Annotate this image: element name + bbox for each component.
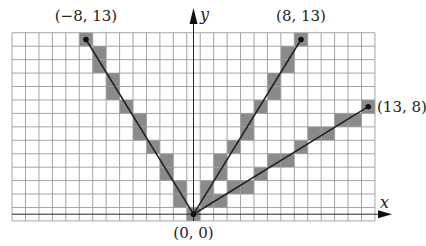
label-neg8-13: (−8, 13) — [55, 7, 117, 25]
endpoint-dot — [365, 104, 371, 110]
shaded-cell — [214, 154, 227, 167]
shaded-cell — [308, 127, 321, 140]
label-13-8: (13, 8) — [377, 98, 426, 116]
shaded-cell — [241, 181, 254, 194]
y-axis-arrow-icon — [190, 8, 198, 24]
endpoint-dot — [298, 37, 304, 43]
raster-line-diagram: x y (0, 0) (−8, 13) (8, 13) (13, 8) — [0, 0, 426, 246]
origin-dot — [191, 211, 197, 217]
endpoint-dot — [83, 37, 89, 43]
y-axis-label: y — [199, 5, 210, 24]
shaded-cell — [160, 154, 173, 167]
label-8-13: (8, 13) — [276, 7, 326, 25]
shaded-cell — [267, 87, 280, 100]
shaded-cell — [106, 87, 119, 100]
origin-label: (0, 0) — [173, 224, 213, 242]
x-axis-label: x — [380, 193, 389, 212]
diagram-canvas: x y (0, 0) (−8, 13) (8, 13) (13, 8) — [0, 0, 426, 246]
